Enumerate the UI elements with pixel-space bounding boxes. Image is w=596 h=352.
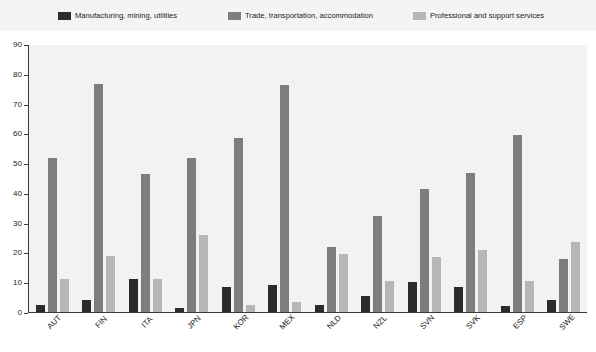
x-category-nld: NLD [307,313,354,352]
bar [501,306,510,312]
x-category-jpn: JPN [168,313,215,352]
bar [199,235,208,312]
x-category-label: FIN [93,314,108,329]
bar [315,305,324,312]
bar [268,285,277,312]
chart-legend: Manufacturing, mining, utilities Trade, … [0,0,596,31]
x-category-swe: SWE [540,313,587,352]
y-tick-label: 0 [18,308,22,317]
plot-area [28,45,587,313]
bar [246,305,255,312]
bar [420,189,429,312]
y-tick-label: 80 [13,70,22,79]
bar-group-nzl [355,45,402,312]
bar-chart: Manufacturing, mining, utilities Trade, … [0,0,596,352]
x-category-svn: SVN [401,313,448,352]
x-category-fin: FIN [75,313,122,352]
bar [60,279,69,312]
y-tick-label: 30 [13,219,22,228]
bar-group-kor [215,45,262,312]
bar [339,254,348,312]
x-category-label: ESP [511,313,529,331]
y-tick-label: 70 [13,100,22,109]
legend-item-manufacturing[interactable]: Manufacturing, mining, utilities [58,11,177,20]
legend-swatch-professional-icon [413,12,426,20]
bar [432,257,441,312]
y-axis: 0102030405060708090 [0,45,28,313]
x-category-label: NLD [325,313,343,331]
bar [525,281,534,312]
bar-group-fin [76,45,123,312]
x-category-label: JPN [186,314,203,331]
bar [373,216,382,312]
legend-label-professional: Professional and support services [430,11,544,20]
bar [571,242,580,312]
x-category-label: NZL [372,314,389,331]
bars-layer [29,45,587,312]
x-category-kor: KOR [214,313,261,352]
bar-group-mex [262,45,309,312]
x-category-ita: ITA [121,313,168,352]
x-category-svk: SVK [447,313,494,352]
bar [513,135,522,312]
y-tick-label: 10 [13,278,22,287]
x-category-nzl: NZL [354,313,401,352]
bar [153,279,162,312]
bar-group-aut [29,45,76,312]
bar [559,259,568,312]
bar-group-jpn [169,45,216,312]
x-category-label: ITA [140,315,155,330]
bar [129,279,138,312]
bar [547,300,556,312]
bar [82,300,91,312]
bar-group-svk [448,45,495,312]
bar [292,302,301,312]
bar [141,174,150,312]
x-category-label: SVK [465,313,483,331]
bar [106,256,115,312]
legend-label-trade: Trade, transportation, accommodation [245,11,373,20]
y-tick-label: 20 [13,248,22,257]
legend-item-professional[interactable]: Professional and support services [413,11,544,20]
x-category-aut: AUT [28,313,75,352]
bar [466,173,475,312]
bar [222,287,231,312]
x-category-label: AUT [46,313,64,331]
bar-group-svn [401,45,448,312]
bar [327,247,336,312]
x-category-label: SVN [418,313,436,331]
bar [94,84,103,312]
x-axis: AUTFINITAJPNKORMEXNLDNZLSVNSVKESPSWE [28,313,587,352]
bar [280,85,289,312]
bar [478,250,487,312]
legend-swatch-trade-icon [228,12,241,20]
bar [234,138,243,312]
bar-group-esp [494,45,541,312]
bar [454,287,463,312]
bar [175,308,184,312]
y-tick-label: 40 [13,189,22,198]
x-category-label: SWE [557,313,576,332]
bar [48,158,57,312]
bar [385,281,394,312]
y-tick-label: 60 [13,129,22,138]
bar [361,296,370,312]
legend-swatch-manufacturing-icon [58,12,71,20]
legend-item-trade[interactable]: Trade, transportation, accommodation [228,11,373,20]
bar-group-nld [308,45,355,312]
bar-group-swe [541,45,588,312]
bar [187,158,196,312]
y-tick-label: 50 [13,159,22,168]
x-category-esp: ESP [494,313,541,352]
bar [36,305,45,312]
legend-label-manufacturing: Manufacturing, mining, utilities [75,11,177,20]
x-category-mex: MEX [261,313,308,352]
x-category-label: MEX [278,313,297,332]
bar [408,282,417,312]
x-category-label: KOR [231,313,250,332]
bar-group-ita [122,45,169,312]
y-tick-label: 90 [13,40,22,49]
